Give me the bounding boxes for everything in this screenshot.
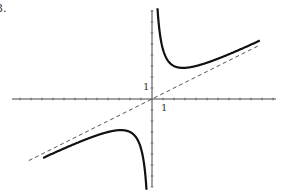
curve-left-branch [43, 130, 146, 190]
function-graph: 1 1 [0, 0, 290, 196]
x-tick-label: 1 [161, 102, 167, 113]
curve-right-branch [158, 8, 260, 68]
asymptote-line [29, 45, 260, 161]
y-tick-label: 1 [143, 81, 149, 92]
